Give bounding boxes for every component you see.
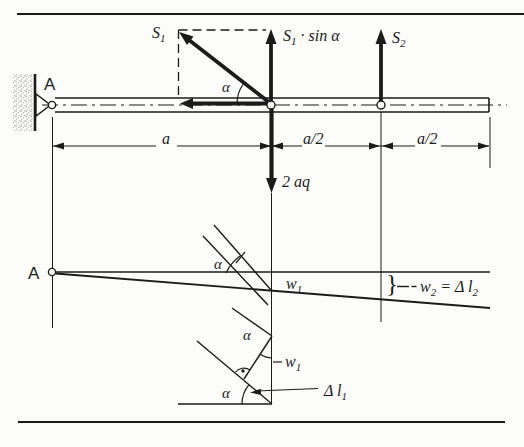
dim-a2-left-label: a/2 [303, 130, 323, 147]
w2-label: w2 = Δ l2 [420, 278, 479, 298]
statics-displacement-diagram: A S1 S1 · sin α S2 α 2 aq a a/2 a/2 A α … [0, 0, 524, 447]
s1-cos-arrowhead [180, 98, 193, 109]
dim-a2-right-label: a/2 [417, 130, 437, 147]
dim-arrow-a2-mid-left [382, 143, 393, 150]
s2-arrowhead [376, 29, 387, 44]
s1-sin-arrowhead [266, 29, 277, 44]
dim-a-label: a [162, 130, 170, 147]
wall-hatch [13, 74, 33, 131]
alpha-arc-top [237, 83, 244, 104]
s2-label: S2 [392, 29, 406, 49]
dim-arrow-right-end [478, 143, 489, 150]
dim-arrow-a-right [260, 143, 271, 150]
joint-pin-1 [267, 101, 275, 109]
delta-l1-leader [256, 389, 318, 392]
joint-pin-2 [377, 101, 385, 109]
w2-brace: } [386, 270, 398, 297]
support-a-label-mid: A [28, 264, 40, 283]
w1-label-detail: w1 [285, 353, 301, 373]
detail-bar-parallel-line [232, 308, 272, 336]
bar-direction-line-2 [203, 236, 268, 305]
alpha-label-detail-top: α [243, 327, 252, 343]
dim-arrow-a2-left [272, 143, 283, 150]
alpha-label-detail-bottom: α [222, 385, 231, 401]
alpha-label-top: α [222, 79, 231, 95]
s1-label: S1 [152, 24, 166, 44]
load-2aq-label: 2 aq [282, 173, 310, 191]
pin-a-circle-mid [48, 268, 55, 275]
alpha-arc-detail-top [260, 354, 272, 358]
right-angle-dot [241, 369, 244, 372]
alpha-arc-detail-bottom [242, 385, 249, 404]
support-a-label-top: A [44, 75, 56, 94]
dim-arrow-a2-mid-right [369, 143, 380, 150]
pin-a-circle [48, 101, 55, 108]
alpha-label-mid: α [214, 256, 223, 272]
dim-arrow-left-end [53, 143, 64, 150]
figure-canvas: A S1 S1 · sin α S2 α 2 aq a a/2 a/2 A α … [0, 0, 524, 447]
load-2aq-arrowhead [266, 178, 277, 193]
delta-l1-label: Δ l1 [323, 382, 347, 402]
s1-sin-label: S1 · sin α [283, 27, 340, 47]
alpha-arc-mid [226, 256, 240, 273]
